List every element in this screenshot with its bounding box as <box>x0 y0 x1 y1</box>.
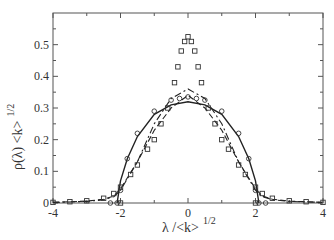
square-marker <box>189 39 193 43</box>
square-marker <box>193 49 197 53</box>
square-marker <box>226 147 230 151</box>
svg-text:0.3: 0.3 <box>34 101 49 115</box>
square-marker <box>199 80 203 84</box>
square-marker <box>176 65 180 69</box>
spectral-density-chart: -4-202400.10.20.30.40.5 ρ(λ) <k>1/2 λ /<… <box>0 0 334 240</box>
svg-text:0.5: 0.5 <box>34 38 49 52</box>
square-marker <box>145 147 149 151</box>
series-dashdot <box>53 89 323 202</box>
square-marker <box>179 49 183 53</box>
series-solid <box>117 102 259 203</box>
svg-text:0.2: 0.2 <box>34 133 49 147</box>
circle-marker <box>194 96 199 101</box>
square-marker <box>182 39 186 43</box>
series-dashed <box>53 95 323 202</box>
square-marker <box>196 65 200 69</box>
svg-text:-4: -4 <box>48 206 58 220</box>
svg-text:2: 2 <box>253 206 259 220</box>
square-marker <box>220 137 224 141</box>
y-axis-label: ρ(λ) <k>1/2 <box>5 104 26 170</box>
svg-text:0.4: 0.4 <box>34 69 49 83</box>
square-marker <box>172 80 176 84</box>
svg-text:0: 0 <box>43 196 49 210</box>
plot-frame <box>53 13 323 203</box>
svg-text:0: 0 <box>185 206 191 220</box>
svg-text:0.1: 0.1 <box>34 164 49 178</box>
square-marker <box>186 35 190 39</box>
svg-text:4: 4 <box>320 206 326 220</box>
circle-marker <box>219 109 224 114</box>
svg-text:-2: -2 <box>116 206 126 220</box>
square-marker <box>152 137 156 141</box>
axis-ticks: -4-202400.10.20.30.40.5 <box>34 13 326 220</box>
circle-marker <box>152 109 157 114</box>
circle-marker <box>177 96 182 101</box>
data-series <box>51 35 325 206</box>
